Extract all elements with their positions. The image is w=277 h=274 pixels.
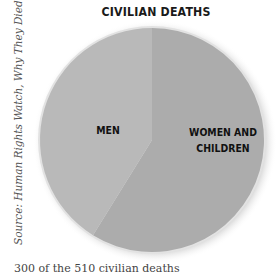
slice-label-men: MEN [83,123,134,139]
slice-label-women-children: WOMEN AND CHILDREN [176,125,270,157]
women-children-label-line1: WOMEN AND [176,125,270,141]
caption-text: 300 of the 510 civilian deaths [14,262,180,274]
women-children-label-line2: CHILDREN [176,141,270,157]
men-label: MEN [96,124,120,137]
